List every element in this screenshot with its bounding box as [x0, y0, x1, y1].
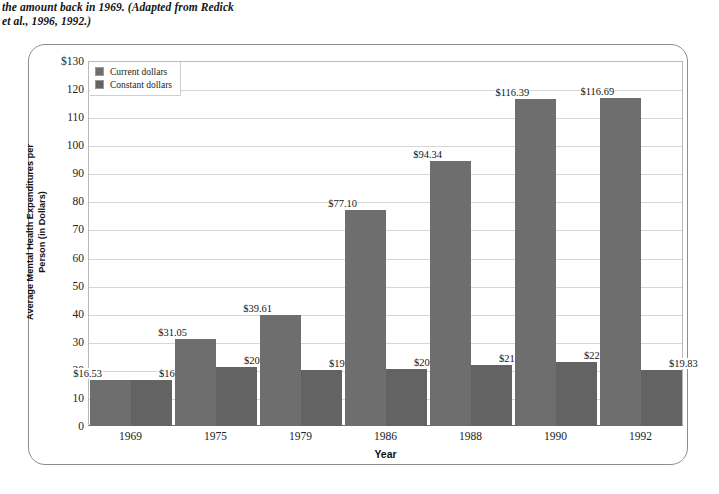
bar-group: $31.05$20.88: [173, 61, 258, 426]
bar[interactable]: $20.88: [216, 367, 257, 426]
bar[interactable]: $16.53: [131, 380, 172, 426]
bar-chart: $1301201101009080706050403020100 Average…: [0, 0, 719, 494]
x-axis-tick-label: 1992: [629, 430, 652, 442]
bar-value-label: $77.10: [327, 198, 358, 209]
bar-group: $77.10$20.15: [343, 61, 428, 426]
x-axis-ticks: 1969197519791986198819901992: [88, 430, 683, 450]
y-axis-tick-label: 0: [78, 420, 84, 432]
y-axis-tick-label: $130: [61, 55, 84, 67]
legend-swatch-icon: [95, 67, 104, 76]
x-axis-title: Year: [88, 448, 683, 460]
bar-value-label: $116.39: [494, 87, 530, 98]
y-axis-title: Average Mental Health Expenditures per P…: [24, 132, 48, 332]
bar[interactable]: $22.81: [556, 362, 597, 426]
y-axis-tick-label: 110: [67, 111, 84, 123]
bar-group: $39.61$19.87: [258, 61, 343, 426]
y-axis-tick-label: 40: [73, 308, 85, 320]
x-axis-tick-label: 1986: [374, 430, 397, 442]
legend-swatch-icon: [95, 80, 104, 89]
bar[interactable]: $19.87: [301, 370, 342, 426]
legend-item[interactable]: Constant dollars: [95, 78, 172, 91]
y-axis-tick-label: 80: [73, 195, 85, 207]
chart-legend: Current dollarsConstant dollars: [90, 62, 181, 96]
y-axis-tick-label: 60: [73, 252, 85, 264]
bar[interactable]: $21.72: [471, 365, 512, 426]
legend-label: Constant dollars: [110, 80, 172, 90]
bar[interactable]: $39.61: [260, 315, 301, 426]
x-axis-tick-label: 1969: [119, 430, 142, 442]
bar[interactable]: $116.39: [515, 99, 556, 426]
bar[interactable]: $20.15: [386, 369, 427, 426]
x-axis-tick-label: 1979: [289, 430, 312, 442]
bar-group: $94.34$21.72: [428, 61, 513, 426]
bar-value-label: $94.34: [412, 149, 443, 160]
bar[interactable]: $94.34: [430, 161, 471, 426]
y-axis-tick-label: 100: [67, 139, 84, 151]
bar-value-label: $19.83: [668, 358, 699, 369]
bar-group: $116.39$22.81: [513, 61, 598, 426]
legend-item[interactable]: Current dollars: [95, 65, 172, 78]
bar-value-label: $116.69: [579, 86, 615, 97]
y-axis-tick-label: 120: [67, 83, 84, 95]
bar[interactable]: $19.83: [641, 370, 682, 426]
bar[interactable]: $16.53: [90, 380, 131, 426]
y-axis-tick-label: 90: [73, 167, 85, 179]
bar-series-container: $16.53$16.53$31.05$20.88$39.61$19.87$77.…: [88, 61, 683, 426]
bar[interactable]: $116.69: [600, 98, 641, 426]
bar-value-label: $31.05: [157, 327, 188, 338]
bar-value-label: $16.53: [72, 368, 103, 379]
y-axis-tick-label: 30: [73, 336, 85, 348]
bar-value-label: $39.61: [242, 303, 273, 314]
y-axis-tick-label: 50: [73, 280, 85, 292]
bar[interactable]: $31.05: [175, 339, 216, 426]
x-axis-tick-label: 1975: [204, 430, 227, 442]
legend-label: Current dollars: [110, 67, 167, 77]
bar-group: $16.53$16.53: [88, 61, 173, 426]
y-axis-tick-label: 10: [73, 392, 85, 404]
bar[interactable]: $77.10: [345, 210, 386, 426]
y-axis-tick-label: 70: [73, 223, 85, 235]
x-axis-tick-label: 1988: [459, 430, 482, 442]
bar-group: $116.69$19.83: [598, 61, 683, 426]
x-axis-tick-label: 1990: [544, 430, 567, 442]
